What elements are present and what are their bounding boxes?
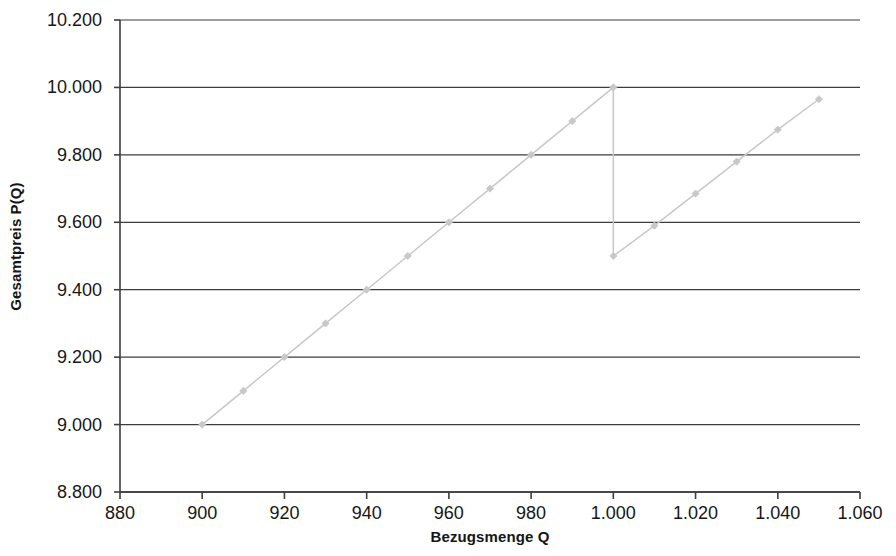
x-tick-label: 880 — [105, 504, 135, 522]
series-line — [202, 87, 819, 424]
x-axis-title: Bezugsmenge Q — [120, 528, 860, 546]
chart-container: Gesamtpreis P(Q) 8.8009.0009.2009.4009.6… — [0, 0, 896, 556]
axis-lines — [120, 20, 860, 492]
gridlines — [120, 20, 860, 492]
tick-marks — [114, 20, 860, 499]
x-tick-label: 920 — [269, 504, 299, 522]
data-series — [199, 84, 823, 428]
x-tick-label: 1.040 — [755, 504, 800, 522]
x-tick-label: 900 — [187, 504, 217, 522]
x-tick-label: 940 — [352, 504, 382, 522]
x-tick-label: 1.060 — [837, 504, 882, 522]
x-tick-label: 1.000 — [591, 504, 636, 522]
x-axis-tick-labels: 8809009209409609801.0001.0201.0401.060 — [0, 496, 896, 526]
x-tick-label: 1.020 — [673, 504, 718, 522]
x-axis-title-text: Bezugsmenge Q — [431, 528, 550, 545]
x-tick-label: 980 — [516, 504, 546, 522]
x-tick-label: 960 — [434, 504, 464, 522]
plot-area — [0, 0, 896, 556]
